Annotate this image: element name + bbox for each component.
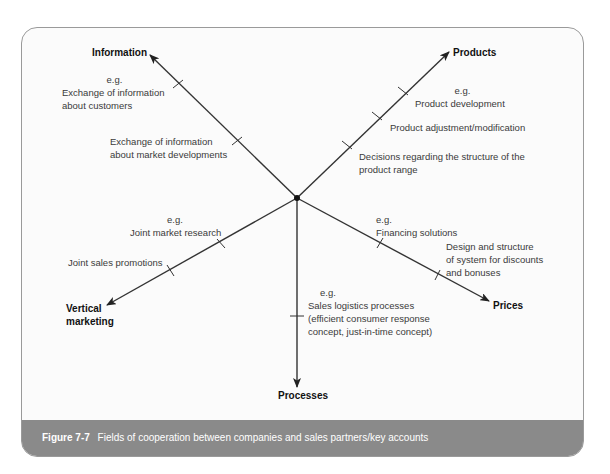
axis-label-vertical-marketing: Vertical marketing <box>66 302 114 328</box>
vertical-marketing-example-2: Joint sales promotions <box>68 256 163 269</box>
information-example-2: Exchange of information about market dev… <box>110 135 227 161</box>
prices-example-1: e.g. Financing solutions <box>376 213 457 239</box>
products-example-3: Decisions regarding the structure of the… <box>359 150 525 176</box>
axis-label-processes: Processes <box>278 389 328 402</box>
center-node <box>294 195 300 201</box>
axis-label-prices: Prices <box>493 299 523 312</box>
cooperation-diagram <box>0 0 610 474</box>
products-example-1: e.g. Product development <box>415 84 510 110</box>
products-example-2: Product adjustment/modification <box>390 121 525 134</box>
vertical-marketing-example-1: e.g. Joint market research <box>130 213 221 239</box>
information-example-1: e.g. Exchange of information about custo… <box>62 73 167 112</box>
prices-example-2: Design and structure of system for disco… <box>446 240 543 279</box>
processes-example-1: e.g. Sales logistics processes (efficien… <box>308 286 432 338</box>
axis-label-information: Information <box>92 46 147 59</box>
tick-marks <box>167 80 440 316</box>
axis-label-products: Products <box>453 46 496 59</box>
information-axis <box>150 55 297 198</box>
